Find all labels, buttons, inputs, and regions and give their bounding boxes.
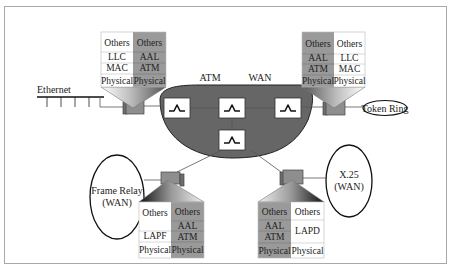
layer-lapd: LAPD	[295, 226, 320, 236]
layer-aal: AAL	[308, 53, 328, 63]
layer-others: Others	[337, 39, 363, 49]
frame-relay-network: Frame Relay (WAN)	[90, 155, 144, 239]
x25-network: X.25 (WAN)	[326, 145, 372, 217]
layer-physical: Physical	[133, 76, 166, 86]
atm-switch-right	[275, 98, 301, 118]
atm-switch-bottom	[219, 130, 245, 150]
layer-aal: AAL	[265, 221, 285, 231]
atm-interworking-diagram: ATM WAN Ethernet	[0, 0, 455, 271]
atm-switch-center	[219, 98, 245, 118]
layer-physical: Physical	[101, 76, 134, 86]
ethernet-label: Ethernet	[37, 84, 71, 95]
layer-atm: ATM	[177, 232, 198, 242]
layer-others: Others	[175, 207, 201, 217]
atm-switch-left	[164, 98, 190, 118]
layer-physical: Physical	[333, 76, 366, 86]
layer-atm: ATM	[308, 64, 329, 74]
stack-roof	[258, 180, 324, 202]
protocol-stack-bottom-left: Others LAPF Physical Others AAL ATM Phys…	[139, 202, 204, 258]
layer-physical: Physical	[291, 246, 324, 256]
layer-others: Others	[104, 38, 130, 48]
layer-llc: LLC	[341, 53, 359, 63]
atm-label: ATM	[199, 72, 220, 83]
layer-physical: Physical	[302, 76, 335, 86]
layer-aal: AAL	[178, 221, 198, 231]
protocol-stack-bottom-right: Others AAL ATM Physical Others LAPD Phys…	[258, 202, 324, 258]
frame-relay-label: Frame Relay	[91, 185, 142, 196]
stack-funnel	[101, 87, 166, 108]
protocol-stack-top-left: Others LLC MAC Physical Others AAL ATM P…	[101, 32, 166, 87]
layer-physical: Physical	[139, 245, 172, 255]
token-ring-network: Token Ring	[362, 101, 409, 116]
layer-lapf: LAPF	[143, 231, 166, 241]
token-ring-label: Token Ring	[362, 103, 409, 114]
layer-aal: AAL	[140, 52, 160, 62]
layer-physical: Physical	[171, 245, 204, 255]
x25-label: X.25	[339, 169, 359, 180]
layer-others: Others	[305, 39, 331, 49]
layer-others: Others	[137, 38, 163, 48]
layer-others: Others	[295, 207, 321, 217]
layer-mac: MAC	[106, 63, 128, 73]
layer-mac: MAC	[339, 64, 361, 74]
x25-wan-label: (WAN)	[334, 181, 363, 193]
layer-others: Others	[142, 208, 168, 218]
layer-atm: ATM	[139, 63, 160, 73]
layer-atm: ATM	[264, 232, 285, 242]
frame-relay-wan-label: (WAN)	[102, 197, 131, 209]
stack-roof	[139, 180, 204, 202]
protocol-stack-top-right: Others AAL ATM Physical Others LLC MAC P…	[302, 32, 366, 87]
layer-llc: LLC	[108, 52, 126, 62]
layer-others: Others	[262, 207, 288, 217]
wan-label: WAN	[249, 72, 272, 83]
layer-physical: Physical	[258, 246, 291, 256]
